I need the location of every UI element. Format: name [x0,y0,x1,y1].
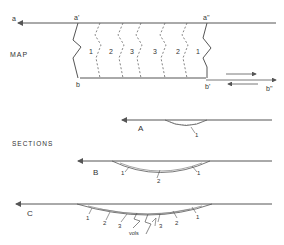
section-c-layer-label: 3 [159,223,163,229]
section-c-layer-label: 3 [118,223,122,229]
point-label-b-double-prime: b'' [266,85,273,92]
section-c-layer-label: 1 [196,214,200,220]
vols-annotation: vols [129,230,139,236]
zone-label: 1 [196,48,200,55]
section-c-layer-label: 2 [175,220,179,226]
map-title: MAP [10,51,28,58]
point-label-a: a [12,15,16,22]
point-label-b-prime: b' [205,83,210,90]
section-c-layer-label: 2 [103,220,107,226]
section-b [78,161,272,178]
section-b-layer-label: 1 [197,170,201,176]
section-a-layer-label: 1 [195,132,199,138]
section-c-label: C [27,209,33,218]
left-zigzag-boundary [73,23,81,78]
section-a-label: A [138,124,144,133]
section-b-layer-label: 2 [157,178,161,184]
zone-label: 3 [130,48,134,55]
diagram-canvas: a a' a'' b b' b'' MAP 1 2 3 3 2 1 SECTIO… [0,0,284,245]
section-b-label: B [93,168,98,177]
right-zigzag-boundary [203,23,211,78]
point-label-b: b [76,81,80,88]
section-c [16,204,272,234]
sections-title: SECTIONS [12,140,53,147]
zone-label: 2 [109,48,113,55]
map-panel [18,23,276,84]
zone-label: 1 [89,48,93,55]
section-b-layer-label: 1 [121,170,125,176]
section-c-layer-label: 1 [86,215,90,221]
point-label-a-double-prime: a'' [203,14,210,21]
zone-label: 3 [153,48,157,55]
zone-label: 2 [176,48,180,55]
point-label-a-prime: a' [74,14,79,21]
